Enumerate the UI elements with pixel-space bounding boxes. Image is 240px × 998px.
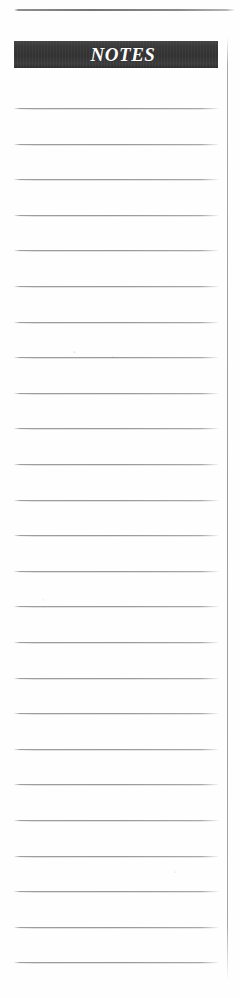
notes-line[interactable]: [14, 927, 218, 928]
notes-line[interactable]: [14, 891, 218, 892]
notes-line[interactable]: [14, 250, 218, 251]
notes-line[interactable]: [14, 820, 218, 821]
right-vertical-rule: [227, 37, 228, 981]
notes-line[interactable]: [14, 856, 218, 857]
notes-line[interactable]: [14, 215, 218, 216]
notes-line[interactable]: [14, 322, 218, 323]
notes-line[interactable]: [14, 393, 218, 394]
notes-line[interactable]: [14, 500, 218, 501]
notes-line[interactable]: [14, 962, 218, 963]
notes-line[interactable]: [14, 713, 218, 714]
notes-line[interactable]: [14, 428, 218, 429]
notes-line[interactable]: [14, 144, 218, 145]
notes-line[interactable]: [14, 357, 218, 358]
notes-line[interactable]: [14, 606, 218, 607]
notes-line[interactable]: [14, 535, 218, 536]
notes-line[interactable]: [14, 678, 218, 679]
notes-line[interactable]: [14, 749, 218, 750]
notes-line[interactable]: [14, 179, 218, 180]
notes-line[interactable]: [14, 784, 218, 785]
notes-line[interactable]: [14, 642, 218, 643]
page-title: NOTES: [91, 44, 156, 66]
notes-page: NOTES: [0, 0, 240, 998]
notes-line[interactable]: [14, 286, 218, 287]
notes-line[interactable]: [14, 464, 218, 465]
notes-ruled-area[interactable]: [0, 0, 240, 998]
notes-line[interactable]: [14, 571, 218, 572]
notes-line[interactable]: [14, 108, 218, 109]
